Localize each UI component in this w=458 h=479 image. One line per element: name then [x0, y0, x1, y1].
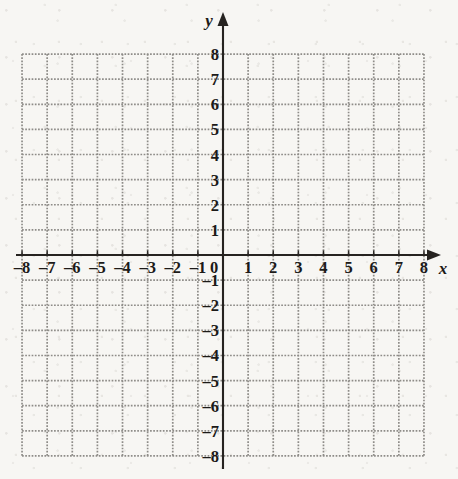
y-tick-label--8: –8	[202, 447, 220, 466]
y-tick-label-1: 1	[211, 221, 219, 240]
x-tick-label-6: 6	[370, 258, 378, 277]
x-axis-label: x	[438, 259, 448, 278]
y-tick-label--7: –7	[202, 422, 220, 441]
x-tick-label-4: 4	[319, 258, 327, 277]
x-tick-label--3: –3	[138, 258, 156, 277]
x-tick-label-8: 8	[420, 258, 428, 277]
y-tick-label-8: 8	[211, 45, 219, 64]
x-tick-label--5: –5	[88, 258, 106, 277]
x-tick-label-1: 1	[244, 258, 252, 277]
x-tick-label--2: –2	[164, 258, 182, 277]
x-tick-label--4: –4	[113, 258, 131, 277]
y-tick-label-3: 3	[211, 171, 219, 190]
y-tick-label-6: 6	[211, 95, 219, 114]
y-tick-label--5: –5	[202, 372, 220, 391]
origin-label: 0	[210, 258, 218, 277]
y-tick-label--3: –3	[202, 321, 220, 340]
x-tick-label-2: 2	[269, 258, 277, 277]
x-tick-label-7: 7	[395, 258, 403, 277]
x-axis-tick-labels: –8–7–6–5–4–3–2–112345678	[13, 258, 428, 277]
y-tick-label-2: 2	[211, 196, 219, 215]
y-axis-label: y	[203, 11, 213, 30]
y-tick-label--4: –4	[202, 346, 220, 365]
y-tick-label--6: –6	[202, 397, 220, 416]
coordinate-plane: –8–7–6–5–4–3–2–112345678 –8–7–6–5–4–3–2–…	[0, 0, 458, 479]
axes	[16, 12, 441, 469]
y-axis-arrowhead	[218, 12, 229, 26]
y-tick-label-5: 5	[211, 120, 219, 139]
y-tick-label-4: 4	[211, 146, 219, 165]
x-tick-label--6: –6	[63, 258, 81, 277]
x-tick-label-3: 3	[294, 258, 302, 277]
x-tick-label--7: –7	[38, 258, 56, 277]
y-tick-label--2: –2	[202, 296, 220, 315]
x-tick-label--8: –8	[13, 258, 31, 277]
coordinate-grid-svg: –8–7–6–5–4–3–2–112345678 –8–7–6–5–4–3–2–…	[0, 0, 458, 479]
x-tick-label-5: 5	[344, 258, 352, 277]
y-tick-label-7: 7	[211, 70, 219, 89]
